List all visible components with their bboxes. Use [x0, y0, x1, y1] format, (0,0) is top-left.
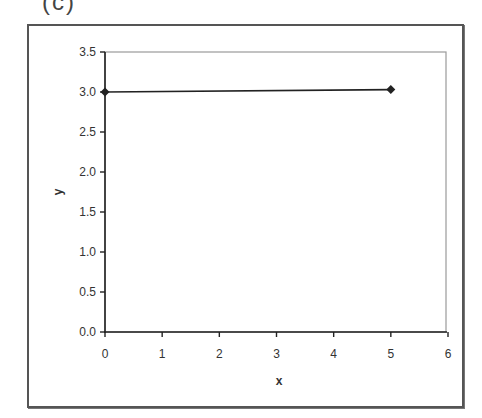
y-tick-label: 0.5 [79, 285, 96, 299]
y-axis-title: y [51, 188, 65, 195]
y-tick-label: 2.5 [79, 125, 96, 139]
x-tick-label: 6 [445, 347, 452, 361]
y-tick-label: 2.0 [79, 165, 96, 179]
x-axis-title: x [276, 374, 283, 388]
x-axis-ticks: 0123456 [102, 332, 452, 361]
y-tick-label: 3.5 [79, 45, 96, 59]
y-axis-ticks: 0.00.51.01.52.02.53.03.5 [79, 45, 105, 339]
data-series [101, 85, 396, 96]
y-tick-label: 3.0 [79, 85, 96, 99]
y-tick-label: 1.5 [79, 205, 96, 219]
line-chart: 0.00.51.01.52.02.53.03.5 0123456 x y [0, 0, 482, 418]
x-tick-label: 1 [159, 347, 166, 361]
data-point-marker [101, 88, 110, 97]
series-line [105, 90, 391, 92]
y-tick-label: 1.0 [79, 245, 96, 259]
y-tick-label: 0.0 [79, 325, 96, 339]
x-tick-label: 0 [102, 347, 109, 361]
x-tick-label: 2 [216, 347, 223, 361]
plot-area [105, 52, 446, 332]
x-tick-label: 4 [330, 347, 337, 361]
x-tick-label: 5 [387, 347, 394, 361]
data-point-marker [386, 85, 395, 94]
x-tick-label: 3 [273, 347, 280, 361]
